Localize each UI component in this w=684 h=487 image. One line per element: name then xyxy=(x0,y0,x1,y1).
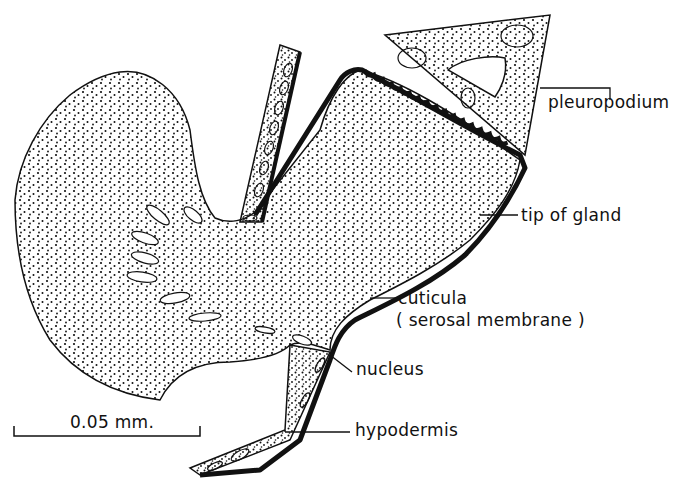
label-hypodermis: hypodermis xyxy=(355,420,458,440)
label-serosal-membrane: ( serosal membrane ) xyxy=(396,310,585,330)
scale-bar-label: 0.05 mm. xyxy=(70,412,154,432)
histology-figure: pleuropodium tip of gland cuticula ( ser… xyxy=(0,0,684,487)
label-cuticula: cuticula xyxy=(398,288,467,308)
label-pleuropodium: pleuropodium xyxy=(548,92,669,112)
label-nucleus: nucleus xyxy=(356,359,424,379)
label-tip-of-gland: tip of gland xyxy=(521,205,621,225)
